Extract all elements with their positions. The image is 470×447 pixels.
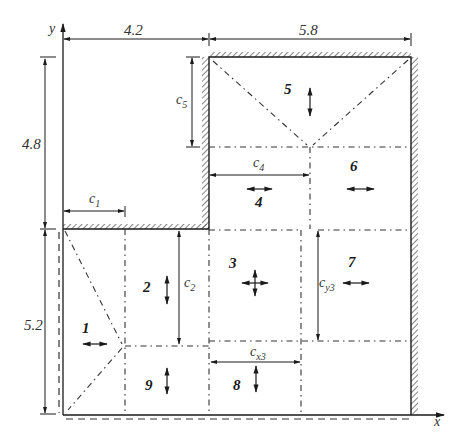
length-c5: c5 bbox=[176, 93, 187, 107]
region-label-2: 2 bbox=[143, 280, 151, 295]
region-label-6: 6 bbox=[350, 159, 358, 174]
length-c2: c2 bbox=[184, 276, 195, 290]
x-axis-label: x bbox=[434, 415, 440, 429]
length-c4: c4 bbox=[253, 156, 264, 170]
dim-left-lower: 5.2 bbox=[24, 318, 43, 333]
c1-sub: 1 bbox=[95, 198, 100, 209]
dim-top-right: 5.8 bbox=[299, 23, 318, 38]
y-axis-label: y bbox=[49, 22, 55, 36]
dim-left-upper: 4.8 bbox=[22, 137, 41, 152]
region-label-9: 9 bbox=[145, 378, 153, 393]
length-c1: c1 bbox=[89, 192, 100, 206]
region-label-8: 8 bbox=[233, 378, 241, 393]
dim-top-left: 4.2 bbox=[124, 23, 143, 38]
c2-sub: 2 bbox=[190, 282, 195, 293]
fixed-edges bbox=[63, 52, 418, 415]
motion-arrows bbox=[83, 88, 374, 394]
c5-sub: 5 bbox=[182, 99, 187, 110]
cx3-sub: x3 bbox=[256, 351, 265, 362]
c4-sub: 4 bbox=[259, 162, 264, 173]
region-label-5: 5 bbox=[284, 82, 292, 97]
length-cx3: cx3 bbox=[250, 345, 266, 359]
dimension-lines bbox=[40, 33, 411, 414]
region-label-7: 7 bbox=[348, 255, 356, 270]
region-label-4: 4 bbox=[255, 195, 263, 210]
length-cy3: cy3 bbox=[319, 276, 335, 290]
region-label-1: 1 bbox=[82, 321, 90, 336]
cy3-sub: y3 bbox=[325, 282, 334, 293]
region-label-3: 3 bbox=[229, 256, 237, 271]
